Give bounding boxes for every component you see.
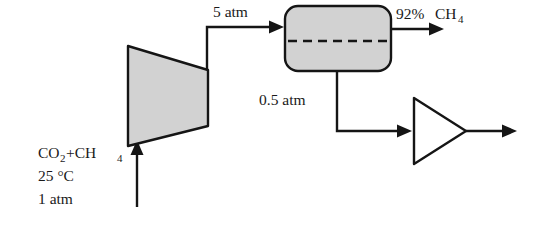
label-retentate-purity-group: 92% CH 4 xyxy=(396,5,464,25)
pump-discharge-arrow xyxy=(466,125,517,138)
label-retentate-species-subscript: 4 xyxy=(458,13,464,25)
label-feed-composition-group: CO 2 +CH 4 xyxy=(38,144,123,164)
label-retentate-species: CH xyxy=(435,5,457,22)
label-feed-co-subscript: 2 xyxy=(60,152,66,164)
label-feed-co: CO xyxy=(38,144,60,161)
label-retentate-purity: 92% xyxy=(396,5,425,22)
label-feed-plus-ch: +CH xyxy=(66,144,96,161)
membrane-separator-unit xyxy=(285,6,391,71)
retentate-outlet-arrow xyxy=(391,23,444,36)
label-feed-ch-subscript: 4 xyxy=(117,152,123,164)
feed-stream-arrow xyxy=(131,140,144,207)
label-feed-pressure: 1 atm xyxy=(38,190,73,207)
label-permeate-pressure: 0.5 atm xyxy=(259,91,306,108)
process-flow-diagram: 5 atm 92% CH 4 0.5 atm CO 2 +CH 4 25 °C … xyxy=(0,0,536,227)
vacuum-pump-unit xyxy=(414,98,466,164)
permeate-pipe xyxy=(337,71,412,138)
label-compressor-outlet-pressure: 5 atm xyxy=(213,3,248,20)
label-feed-temperature: 25 °C xyxy=(38,167,74,184)
compressor-unit xyxy=(128,46,208,146)
flowsheet-canvas: 5 atm 92% CH 4 0.5 atm CO 2 +CH 4 25 °C … xyxy=(0,0,536,227)
compressor-to-membrane-pipe xyxy=(207,21,284,71)
